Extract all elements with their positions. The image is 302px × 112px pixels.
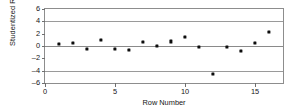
data-point (225, 45, 228, 48)
reference-line-zero (45, 46, 283, 47)
y-axis-tick (42, 21, 46, 22)
y-axis-tick-label: –6 (32, 79, 40, 86)
x-axis-tick (115, 83, 116, 87)
y-axis-tick (42, 34, 46, 35)
y-axis-tick (42, 71, 46, 72)
y-axis-tick (42, 9, 46, 10)
x-axis-tick-label: 15 (251, 88, 259, 95)
x-axis-tick (45, 83, 46, 87)
data-point (211, 72, 214, 75)
y-axis-tick-label: –2 (32, 55, 40, 62)
data-point (99, 38, 102, 41)
data-point (71, 42, 74, 45)
data-point (169, 40, 172, 43)
y-axis-tick (42, 58, 46, 59)
y-axis-tick (42, 46, 46, 47)
plot-area: 6420–2–4–6051015 (44, 8, 284, 84)
data-point (127, 48, 130, 51)
data-point (155, 44, 158, 47)
x-axis-tick-label: 0 (43, 88, 47, 95)
data-point (239, 49, 242, 52)
studentized-residual-scatter-chart: Studentized Residual 6420–2–4–6051015 Ro… (0, 0, 302, 112)
x-axis-title: Row Number (44, 98, 284, 107)
data-point (197, 45, 200, 48)
x-axis-tick (185, 83, 186, 87)
y-axis-tick-label: –4 (32, 67, 40, 74)
y-axis-tick-label: 4 (36, 18, 40, 25)
x-axis-tick-label: 5 (113, 88, 117, 95)
y-axis-tick-label: 6 (36, 5, 40, 12)
y-axis-title: Studentized Residual (8, 0, 20, 52)
data-point (253, 41, 256, 44)
x-axis-tick (255, 83, 256, 87)
x-axis-tick-label: 10 (181, 88, 189, 95)
data-point (85, 47, 88, 50)
data-point (113, 47, 116, 50)
y-axis-tick-label: 2 (36, 30, 40, 37)
data-point (183, 35, 186, 38)
y-axis-tick-label: 0 (36, 42, 40, 49)
data-point (141, 40, 144, 43)
data-point (267, 30, 270, 33)
reference-line-neg4 (45, 71, 283, 72)
data-point (57, 42, 60, 45)
reference-line-4 (45, 21, 283, 22)
